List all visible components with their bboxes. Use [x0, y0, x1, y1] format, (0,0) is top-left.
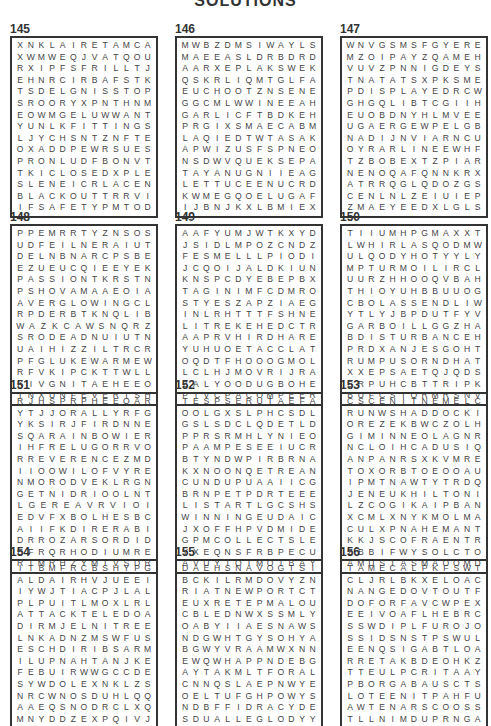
grid-letter: K: [430, 454, 440, 466]
grid-letter: I: [36, 524, 46, 536]
grid-letter: S: [265, 144, 275, 156]
grid-letter: F: [36, 240, 46, 252]
grid-letter: F: [265, 667, 275, 679]
grid-letter: C: [345, 298, 355, 310]
grid-letter: G: [441, 321, 451, 333]
grid-letter: L: [441, 575, 451, 587]
grid-letter: B: [143, 309, 153, 321]
grid-letter: T: [419, 156, 429, 168]
grid-letter: E: [244, 179, 254, 191]
grid-letter: P: [409, 309, 419, 321]
grid-letter: C: [201, 98, 211, 110]
grid-letter: R: [201, 110, 211, 122]
grid-letter: Z: [254, 86, 264, 98]
grid-row: NSDWVQUEKSEPA: [180, 156, 318, 168]
grid-letter: Z: [223, 144, 233, 156]
grid-letter: T: [233, 633, 243, 645]
grid-letter: B: [409, 98, 419, 110]
grid-letter: L: [244, 251, 254, 263]
grid-letter: B: [356, 679, 366, 691]
grid-letter: H: [473, 419, 483, 431]
grid-letter: O: [36, 98, 46, 110]
grid-letter: N: [36, 121, 46, 133]
grid-letter: E: [356, 489, 366, 501]
grid-letter: I: [121, 240, 131, 252]
grid-letter: P: [297, 156, 307, 168]
grid-letter: F: [473, 586, 483, 598]
grid-letter: A: [276, 396, 286, 408]
grid-letter: M: [345, 52, 355, 64]
grid-letter: O: [132, 609, 142, 621]
grid-letter: U: [36, 263, 46, 275]
grid-letter: N: [143, 179, 153, 191]
grid-letter: I: [377, 52, 387, 64]
grid-letter: D: [366, 133, 376, 145]
grid-letter: B: [377, 321, 387, 333]
grid-letter: O: [58, 477, 68, 489]
grid-letter: J: [180, 263, 190, 275]
grid-letter: W: [191, 191, 201, 203]
grid-letter: H: [451, 656, 461, 668]
grid-letter: T: [68, 598, 78, 610]
grid-row: NRCWNOSDUHLQQ: [15, 691, 153, 703]
grid-letter: L: [143, 598, 153, 610]
grid-letter: N: [132, 110, 142, 122]
grid-letter: N: [180, 156, 190, 168]
grid-letter: E: [132, 179, 142, 191]
grid-letter: S: [121, 274, 131, 286]
grid-letter: E: [286, 156, 296, 168]
grid-letter: B: [89, 75, 99, 87]
grid-letter: N: [297, 644, 307, 656]
grid-letter: N: [108, 321, 118, 333]
grid-letter: F: [297, 396, 307, 408]
grid-letter: T: [212, 179, 222, 191]
grid-letter: M: [441, 524, 451, 536]
grid-letter: B: [398, 575, 408, 587]
grid-letter: O: [409, 356, 419, 368]
grid-letter: H: [473, 332, 483, 344]
grid-letter: N: [297, 454, 307, 466]
grid-letter: E: [286, 489, 296, 501]
grid-letter: I: [143, 575, 153, 587]
grid-letter: M: [36, 52, 46, 64]
grid-letter: E: [111, 263, 121, 275]
grid-letter: K: [180, 466, 190, 478]
grid-letter: A: [286, 332, 296, 344]
grid-letter: E: [254, 191, 264, 203]
grid-letter: O: [79, 298, 89, 310]
grid-letter: A: [89, 286, 99, 298]
grid-letter: A: [297, 98, 307, 110]
grid-letter: P: [254, 598, 264, 610]
grid-letter: A: [388, 344, 398, 356]
grid-letter: Y: [297, 691, 307, 703]
grid-letter: M: [121, 40, 131, 52]
grid-letter: S: [265, 633, 275, 645]
grid-letter: L: [233, 251, 243, 263]
grid-letter: M: [244, 286, 254, 298]
grid-letter: L: [121, 586, 131, 598]
grid-letter: N: [388, 396, 398, 408]
grid-letter: P: [244, 489, 254, 501]
grid-letter: I: [68, 586, 78, 598]
grid-letter: S: [212, 431, 222, 443]
grid-letter: H: [451, 691, 461, 703]
grid-letter: S: [388, 644, 398, 656]
grid-letter: O: [36, 477, 46, 489]
grid-letter: W: [36, 110, 46, 122]
grid-letter: I: [377, 133, 387, 145]
grid-letter: W: [366, 621, 376, 633]
grid-row: WAZKCAWSNQRZ: [15, 321, 153, 333]
grid-letter: B: [132, 251, 142, 263]
grid-letter: O: [366, 110, 376, 122]
grid-letter: X: [345, 512, 355, 524]
grid-letter: N: [68, 251, 78, 263]
grid-letter: A: [100, 52, 110, 64]
grid-letter: O: [377, 598, 387, 610]
grid-letter: G: [286, 191, 296, 203]
grid-row: TAYANUGNIIEAG: [180, 168, 318, 180]
grid-letter: L: [68, 442, 78, 454]
grid-letter: H: [388, 274, 398, 286]
grid-letter: E: [254, 274, 264, 286]
grid-letter: L: [100, 408, 110, 420]
grid-row: RUNWSHADDOCKI: [345, 408, 483, 420]
